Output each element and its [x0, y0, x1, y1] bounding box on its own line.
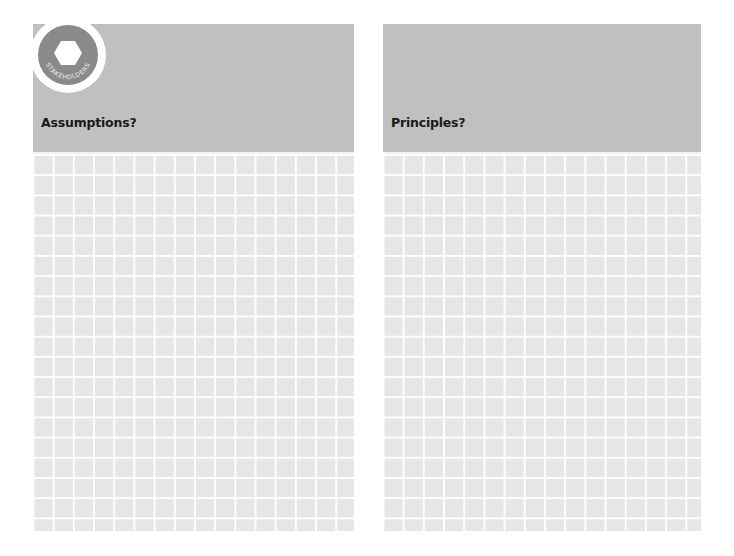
hexagon-icon: STAKEHOLDERS	[30, 17, 106, 93]
writing-grid	[383, 154, 701, 531]
panel-title: Assumptions?	[41, 115, 136, 130]
writing-grid	[33, 154, 354, 531]
principles-panel: Principles?	[383, 24, 701, 531]
panel-title: Principles?	[391, 115, 465, 130]
panel-header: Principles?	[383, 24, 701, 152]
stakeholders-badge: STAKEHOLDERS	[30, 17, 106, 93]
assumptions-panel: Assumptions? STAKEHOLDERS	[33, 24, 354, 531]
